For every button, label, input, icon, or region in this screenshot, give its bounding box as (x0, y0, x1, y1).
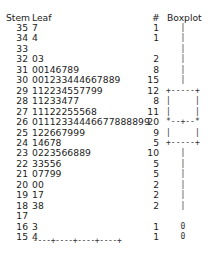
count-value: 2 (145, 201, 159, 211)
count-value: 1 (145, 232, 159, 242)
header-boxplot: Boxplot (167, 12, 202, 23)
boxplot-segment: | (166, 159, 206, 169)
leaf-value: 38 (32, 201, 44, 211)
stem-value: 28 (0, 96, 28, 106)
leaf-axis: ----+----+----+----+ (33, 236, 121, 245)
boxplot-segment: | | (166, 128, 206, 138)
count-value: 1 (145, 33, 159, 43)
boxplot-segment: | (166, 33, 206, 43)
boxplot-segment: | (166, 23, 206, 33)
boxplot-segment: *--+--* (166, 117, 206, 127)
boxplot-segment: | (166, 201, 206, 211)
table-row: 28112334778| | (0, 96, 211, 106)
boxplot-segment: | (166, 44, 206, 54)
boxplot-segment: | | (166, 107, 206, 117)
stem-value: 17 (0, 211, 28, 221)
boxplot-segment: | (166, 75, 206, 85)
boxplot-segment: +-----+ (166, 138, 206, 148)
table-row: 18382 | (0, 201, 211, 211)
boxplot-segment: | (166, 65, 206, 75)
table-row: 3441 | (0, 33, 211, 43)
table-row: 260111233444667788889920*--+--* (0, 117, 211, 127)
stem-value: 15 (0, 232, 28, 242)
boxplot-segment: | | (166, 96, 206, 106)
boxplot-segment: | (166, 148, 206, 158)
boxplot-segment: | (166, 190, 206, 200)
boxplot-segment: | (166, 169, 206, 179)
leaf-value: 4 (32, 33, 38, 43)
stem-value: 26 (0, 117, 28, 127)
boxplot-segment: 0 (166, 232, 206, 242)
boxplot-segment: 0 (166, 222, 206, 232)
leaf-value: 01112334446677888899 (32, 117, 150, 127)
table-row: 17 (0, 211, 211, 221)
leaf-value: 11233477 (32, 96, 79, 106)
count-value: 20 (145, 117, 159, 127)
count-value: 8 (145, 96, 159, 106)
boxplot-segment: +-----+ (166, 86, 206, 96)
boxplot-segment: | (166, 180, 206, 190)
boxplot-segment: | (166, 54, 206, 64)
